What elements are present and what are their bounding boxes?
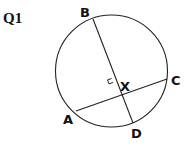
point-b-label: B: [80, 5, 90, 20]
right-angle-marker: [108, 79, 114, 84]
point-x-label: X: [120, 79, 130, 94]
point-a-label: A: [63, 112, 73, 127]
circle: [56, 15, 168, 127]
chord-bd: [93, 19, 133, 123]
point-d-label: D: [131, 126, 142, 141]
circle-diagram: B C A D X: [0, 0, 196, 157]
point-c-label: C: [171, 73, 181, 88]
